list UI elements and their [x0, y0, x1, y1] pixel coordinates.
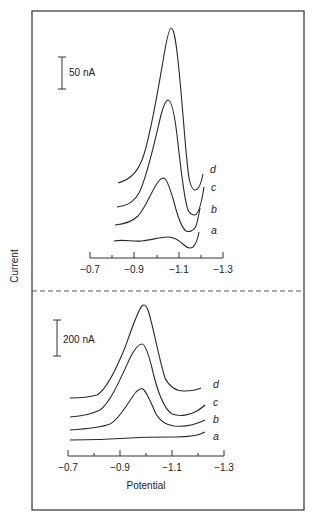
- lower-tick-1.3: −1.3: [214, 462, 234, 473]
- voltammogram-figure: Current 50 nA d c b a −0.7: [0, 0, 312, 519]
- lower-tick-0.7: −0.7: [58, 462, 78, 473]
- upper-scale-label: 50 nA: [69, 67, 95, 78]
- upper-curve-a: [114, 232, 199, 248]
- lower-label-a: a: [213, 430, 219, 442]
- lower-tick-0.9: −0.9: [110, 462, 130, 473]
- upper-tick-1.3: −1.3: [213, 264, 233, 275]
- lower-scale-label: 200 nA: [63, 334, 95, 345]
- lower-curve-d: [70, 305, 201, 398]
- lower-label-c: c: [213, 396, 219, 408]
- lower-tick-1.1: −1.1: [162, 462, 182, 473]
- lower-scale-bar: 200 nA: [53, 320, 95, 356]
- upper-label-b: b: [211, 203, 217, 215]
- upper-curve-b: [115, 178, 200, 231]
- lower-label-d: d: [213, 378, 220, 390]
- lower-curve-c: [70, 344, 205, 417]
- upper-curve-d: [118, 28, 203, 190]
- lower-curve-b: [70, 389, 205, 430]
- lower-label-b: b: [213, 413, 219, 425]
- upper-curve-c: [117, 100, 204, 215]
- upper-label-a: a: [211, 224, 217, 236]
- upper-panel: 50 nA d c b a −0.7 −0.9 −1.1 −1.3: [58, 28, 233, 275]
- upper-tick-0.7: −0.7: [80, 264, 100, 275]
- upper-scale-bar: 50 nA: [58, 57, 95, 89]
- y-axis-title: Current: [9, 249, 20, 283]
- upper-tick-1.1: −1.1: [169, 264, 189, 275]
- upper-label-d: d: [210, 163, 217, 175]
- lower-x-axis: −0.7 −0.9 −1.1 −1.3: [58, 450, 234, 473]
- x-axis-title: Potential: [127, 480, 166, 491]
- figure-frame: [32, 11, 304, 510]
- lower-curve-a: [70, 432, 205, 440]
- lower-panel: 200 nA d c b a −0.7 −0.9 −1.1 −1.3 Poten…: [53, 305, 234, 491]
- upper-label-c: c: [211, 181, 217, 193]
- upper-tick-0.9: −0.9: [124, 264, 144, 275]
- upper-x-axis: −0.7 −0.9 −1.1 −1.3: [80, 252, 233, 275]
